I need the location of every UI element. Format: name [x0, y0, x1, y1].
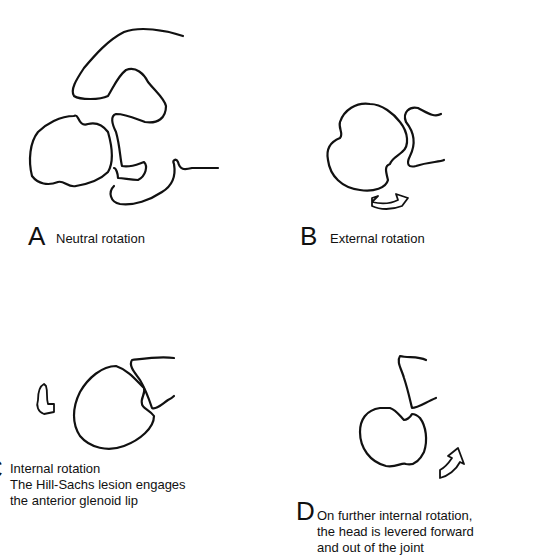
panel-d-caption-line-2: the head is levered forward: [317, 524, 474, 540]
panel-c-glenoid: [131, 357, 174, 408]
panel-b-humeral-head: [328, 104, 408, 191]
panel-a-caption: Neutral rotation: [56, 231, 145, 247]
panel-d-letter: D: [296, 498, 315, 524]
panel-b-rotation-arrow: [372, 194, 408, 209]
panel-d-rotation-arrow: [440, 448, 464, 478]
panel-c-caption-line-3: the anterior glenoid lip: [10, 493, 186, 509]
panel-d-humeral-head: [360, 408, 426, 466]
panel-b-letter: B: [300, 223, 317, 249]
panel-c-rotation-arrow: [37, 384, 54, 414]
panel-c-humeral-head: [74, 366, 154, 449]
panel-b-caption: External rotation: [330, 231, 425, 247]
panel-c-caption: Internal rotation The Hill-Sachs lesion …: [10, 461, 186, 509]
panel-d-caption-line-1: On further internal rotation,: [317, 508, 474, 524]
panel-a-humeral-head: [30, 116, 112, 187]
panel-a-letter: A: [28, 223, 45, 249]
panel-b-glenoid: [405, 108, 444, 167]
panel-d-glenoid: [399, 356, 436, 408]
panel-c-caption-line-2: The Hill-Sachs lesion engages: [10, 477, 186, 493]
panel-c-caption-line-1: Internal rotation: [10, 461, 186, 477]
panel-d-caption: On further internal rotation, the head i…: [317, 508, 474, 556]
panel-c-letter: C: [0, 456, 3, 482]
panel-a-acromion: [73, 29, 183, 180]
panel-d-caption-line-3: and out of the joint: [317, 540, 474, 556]
